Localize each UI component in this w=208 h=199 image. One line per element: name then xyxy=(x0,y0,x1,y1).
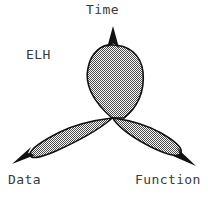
data-axis-label: Data xyxy=(8,172,41,187)
time-lobe xyxy=(87,45,143,118)
elh-diagram: Time ELH Data Function xyxy=(0,0,208,199)
function-lobe xyxy=(113,118,181,155)
function-axis-label: Function xyxy=(135,172,201,187)
diagram-canvas xyxy=(0,0,208,199)
data-lobe xyxy=(30,118,112,158)
elh-title-label: ELH xyxy=(26,47,51,62)
time-axis-label: Time xyxy=(86,2,119,17)
elh-region xyxy=(30,45,181,158)
